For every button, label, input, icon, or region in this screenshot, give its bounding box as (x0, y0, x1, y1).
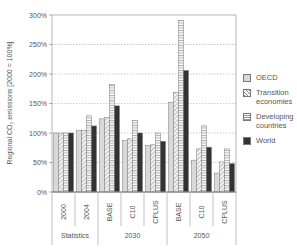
bar-developing-countries (110, 85, 115, 192)
bar-world (92, 126, 97, 192)
legend-item: Transition economies (243, 88, 297, 106)
bar-world (161, 141, 166, 192)
bar-oecd (192, 160, 197, 192)
legend-label: OECD (256, 73, 297, 82)
bar-oecd (100, 119, 105, 192)
bar-world (230, 164, 235, 192)
x-group-label: 2050 (194, 232, 210, 239)
bar-world (138, 133, 143, 192)
bar-transition-economies (59, 133, 64, 192)
x-category-label: CPLUS (152, 200, 159, 224)
bar-oecd (77, 131, 82, 192)
x-category-label: 2004 (83, 204, 90, 220)
legend-swatch-icon (243, 89, 251, 97)
y-tick-label: 300% (29, 12, 47, 19)
bar-transition-economies (105, 118, 110, 192)
bar-oecd (146, 145, 151, 192)
bar-oecd (169, 102, 174, 192)
bar-oecd (123, 141, 128, 192)
bar-developing-countries (225, 149, 230, 192)
bar-transition-economies (128, 139, 133, 192)
x-category-label: C10 (198, 205, 205, 218)
bar-developing-countries (202, 126, 207, 192)
x-category-label: BASE (106, 202, 113, 221)
x-category-label: C10 (129, 205, 136, 218)
legend-label: Developing countries (256, 112, 297, 130)
bar-developing-countries (179, 20, 184, 192)
legend-label: Transition economies (256, 88, 297, 106)
bar-world (184, 70, 189, 192)
legend-swatch-icon (243, 74, 251, 82)
y-tick-label: 200% (29, 71, 47, 78)
bar-transition-economies (151, 145, 156, 192)
x-group-label: Statistics (61, 232, 90, 239)
y-tick-label: 150% (29, 100, 47, 107)
x-category-label: 2000 (60, 204, 67, 220)
bar-developing-countries (64, 133, 69, 192)
legend: OECDTransition economiesDeveloping count… (243, 73, 297, 151)
bar-developing-countries (156, 133, 161, 192)
y-axis-title: Regional CO₂ emissions [2000 = 100%] (6, 41, 14, 164)
legend-item: World (243, 136, 297, 145)
bar-transition-economies (220, 162, 225, 192)
legend-label: World (256, 136, 297, 145)
bar-world (115, 106, 120, 192)
legend-item: Developing countries (243, 112, 297, 130)
x-category-label: BASE (175, 202, 182, 221)
bars (54, 20, 235, 192)
bar-world (69, 133, 74, 192)
y-tick-label: 250% (29, 41, 47, 48)
axes (49, 15, 236, 245)
x-category-label: CPLUS (221, 200, 228, 224)
bar-world (207, 147, 212, 192)
legend-item: OECD (243, 73, 297, 82)
legend-swatch-icon (243, 113, 251, 121)
bar-transition-economies (82, 131, 87, 192)
legend-swatch-icon (243, 137, 251, 145)
bar-transition-economies (197, 149, 202, 192)
bar-oecd (54, 133, 59, 192)
bar-transition-economies (174, 92, 179, 192)
y-tick-label: 50% (33, 159, 47, 166)
bar-developing-countries (87, 116, 92, 192)
y-tick-label: 100% (29, 130, 47, 137)
x-group-label: 2030 (125, 232, 141, 239)
y-tick-label: 0% (37, 189, 47, 196)
bar-developing-countries (133, 121, 138, 192)
bar-oecd (215, 173, 220, 192)
